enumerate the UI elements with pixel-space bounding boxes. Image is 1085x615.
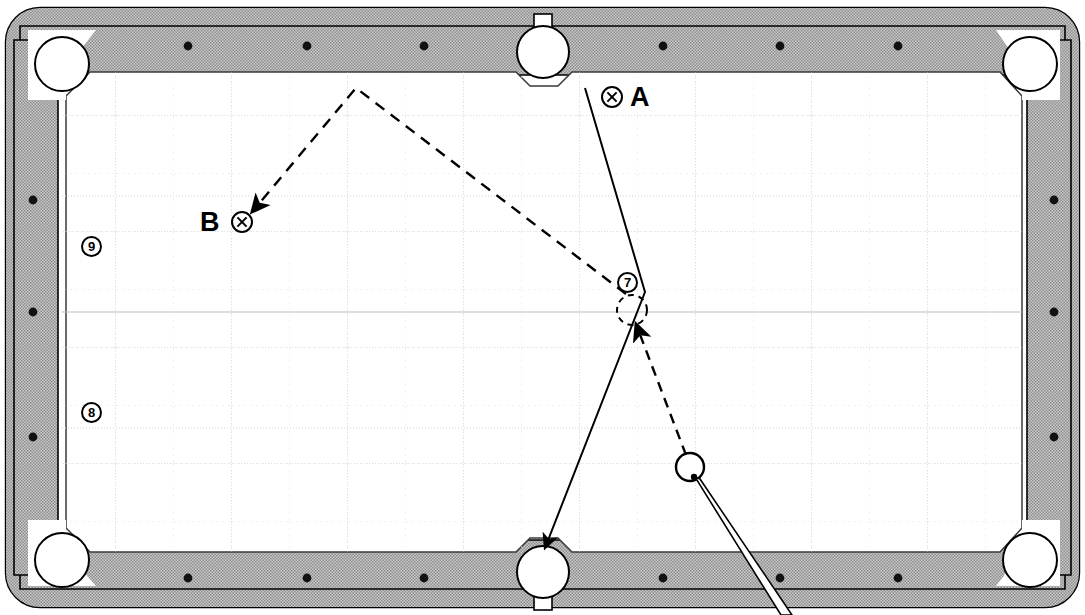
- diamond-right-2: [1050, 308, 1059, 317]
- diamond-top-4: [659, 42, 668, 51]
- pool-table-diagram: A B 7 9 8: [0, 0, 1085, 615]
- diamond-top-2: [303, 42, 312, 51]
- diamond-top-1: [184, 42, 193, 51]
- ball-9-marker: 9: [81, 236, 102, 257]
- diamond-top-5: [776, 42, 785, 51]
- marker-a-xmark: [601, 86, 623, 108]
- diamond-left-2: [29, 308, 38, 317]
- diamond-bottom-4: [659, 574, 668, 583]
- ball-8-marker: 8: [81, 402, 102, 423]
- diamond-top-3: [420, 42, 429, 51]
- diamond-bottom-3: [420, 574, 429, 583]
- diamond-bottom-1: [184, 574, 193, 583]
- marker-a-label: A: [630, 84, 650, 111]
- diamond-right-3: [1050, 433, 1059, 442]
- table-svg: [0, 0, 1085, 615]
- diamond-bottom-5: [776, 574, 785, 583]
- ball-7-marker: 7: [617, 272, 638, 293]
- diamond-bottom-2: [303, 574, 312, 583]
- marker-b-xmark: [231, 211, 253, 233]
- cue-ball: [676, 453, 704, 481]
- diamond-left-1: [29, 196, 38, 205]
- diamond-bottom-6: [894, 574, 903, 583]
- marker-b-label: B: [200, 209, 220, 236]
- diamond-right-1: [1050, 196, 1059, 205]
- diamond-top-6: [894, 42, 903, 51]
- diamond-left-3: [29, 433, 38, 442]
- playing-surface: [62, 72, 1022, 552]
